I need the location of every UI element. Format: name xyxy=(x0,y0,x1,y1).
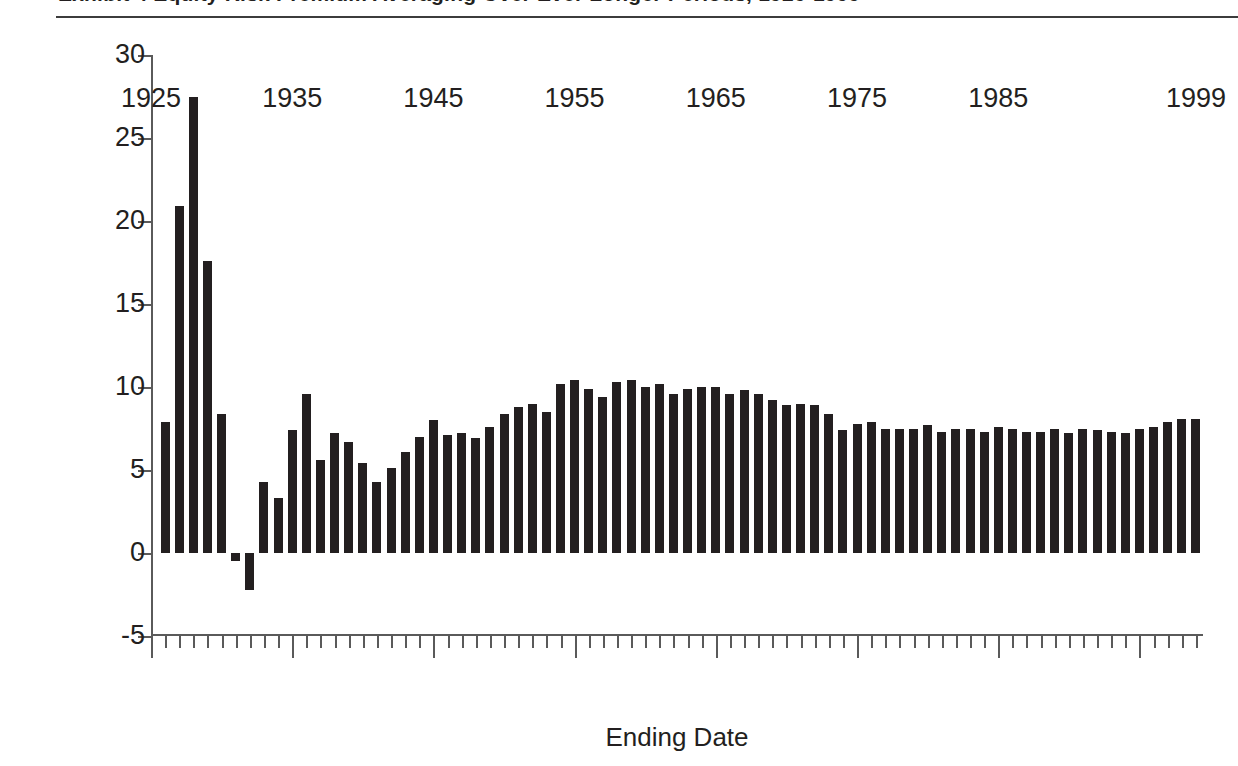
bar-1993 xyxy=(1107,432,1116,553)
x-tick-1980 xyxy=(928,636,930,648)
bar-1950 xyxy=(500,414,509,553)
bar-1982 xyxy=(951,429,960,554)
x-tick-1970 xyxy=(786,636,788,648)
bar-1935 xyxy=(288,430,297,553)
x-tick-1931 xyxy=(236,636,238,648)
x-tick-1973 xyxy=(829,636,831,648)
bar-1934 xyxy=(274,498,283,553)
bar-1953 xyxy=(542,412,551,553)
bar-1976 xyxy=(867,422,876,553)
x-tick-1960 xyxy=(645,636,647,648)
x-tick-1976 xyxy=(871,636,873,648)
bar-1949 xyxy=(485,427,494,553)
plot-area: 302520151050-5 1925193519451955196519751… xyxy=(151,55,1203,636)
x-tick-1941 xyxy=(377,636,379,648)
y-tick-label: -5 xyxy=(121,620,145,651)
x-tick-1998 xyxy=(1182,636,1184,648)
bar-1994 xyxy=(1121,433,1130,553)
bar-1985 xyxy=(994,427,1003,553)
x-tick-1999 xyxy=(1196,636,1198,648)
bar-1987 xyxy=(1022,432,1031,553)
bar-1932 xyxy=(245,553,254,590)
x-axis-label-1955: 1955 xyxy=(545,83,605,114)
x-tick-1959 xyxy=(631,636,633,648)
bar-1933 xyxy=(259,482,268,553)
x-tick-1958 xyxy=(617,636,619,648)
x-tick-1988 xyxy=(1041,636,1043,648)
x-tick-1957 xyxy=(603,636,605,648)
x-tick-1978 xyxy=(899,636,901,648)
x-tick-1995 xyxy=(1139,636,1141,658)
x-tick-1982 xyxy=(956,636,958,648)
bar-1959 xyxy=(627,380,636,553)
x-axis-label-1935: 1935 xyxy=(262,83,322,114)
x-tick-1994 xyxy=(1125,636,1127,648)
bar-1989 xyxy=(1050,429,1059,554)
x-tick-1929 xyxy=(207,636,209,648)
x-axis-label-1985: 1985 xyxy=(968,83,1028,114)
bar-1996 xyxy=(1149,427,1158,553)
bar-1962 xyxy=(669,394,678,553)
bar-1973 xyxy=(824,414,833,553)
bar-1930 xyxy=(217,414,226,553)
x-axis-label-1999: 1999 xyxy=(1166,83,1226,114)
y-tick-label: 25 xyxy=(115,122,145,153)
bar-1952 xyxy=(528,404,537,553)
x-tick-1951 xyxy=(518,636,520,648)
bar-1964 xyxy=(697,387,706,553)
bar-1955 xyxy=(570,380,579,553)
y-tick-label: 5 xyxy=(130,454,145,485)
x-tick-1933 xyxy=(264,636,266,648)
x-tick-1963 xyxy=(688,636,690,648)
y-axis-line xyxy=(151,55,153,636)
x-tick-1936 xyxy=(306,636,308,648)
bar-1956 xyxy=(584,389,593,553)
x-tick-1947 xyxy=(462,636,464,648)
bar-1937 xyxy=(316,460,325,553)
bar-1986 xyxy=(1008,429,1017,554)
bar-1981 xyxy=(937,432,946,553)
y-tick-label: 15 xyxy=(115,288,145,319)
x-axis-label-1965: 1965 xyxy=(686,83,746,114)
x-tick-1964 xyxy=(702,636,704,648)
x-tick-1966 xyxy=(730,636,732,648)
bar-1972 xyxy=(810,405,819,553)
bar-1980 xyxy=(923,425,932,553)
bar-1940 xyxy=(358,463,367,553)
x-tick-1946 xyxy=(448,636,450,648)
bar-1947 xyxy=(457,433,466,553)
x-tick-1940 xyxy=(363,636,365,648)
bar-1946 xyxy=(443,435,452,553)
bar-1991 xyxy=(1078,429,1087,554)
bar-1970 xyxy=(782,405,791,553)
bar-1928 xyxy=(189,97,198,554)
bar-1979 xyxy=(909,429,918,554)
bar-1966 xyxy=(725,394,734,553)
bar-1954 xyxy=(556,384,565,553)
x-tick-1981 xyxy=(942,636,944,648)
x-tick-1991 xyxy=(1083,636,1085,648)
bar-1960 xyxy=(641,387,650,553)
bar-1948 xyxy=(471,438,480,553)
bar-1995 xyxy=(1135,429,1144,554)
x-tick-1984 xyxy=(984,636,986,648)
figure-title: Exhibit 4 Equity Risk Premium Averaging … xyxy=(58,0,958,6)
bar-1968 xyxy=(754,394,763,553)
x-tick-1985 xyxy=(998,636,1000,658)
x-tick-1972 xyxy=(815,636,817,648)
title-rule-divider xyxy=(56,16,1238,18)
x-tick-1965 xyxy=(716,636,718,658)
bar-1951 xyxy=(514,407,523,553)
bar-1992 xyxy=(1093,430,1102,553)
bar-1967 xyxy=(740,390,749,553)
x-tick-1979 xyxy=(914,636,916,648)
x-tick-1950 xyxy=(504,636,506,648)
bar-1929 xyxy=(203,261,212,553)
x-tick-1993 xyxy=(1111,636,1113,648)
figure-page: Exhibit 4 Equity Risk Premium Averaging … xyxy=(0,0,1238,766)
bar-1963 xyxy=(683,389,692,553)
x-tick-1986 xyxy=(1012,636,1014,648)
x-axis-title: Ending Date xyxy=(151,722,1203,753)
bar-1974 xyxy=(838,430,847,553)
x-tick-1944 xyxy=(419,636,421,648)
